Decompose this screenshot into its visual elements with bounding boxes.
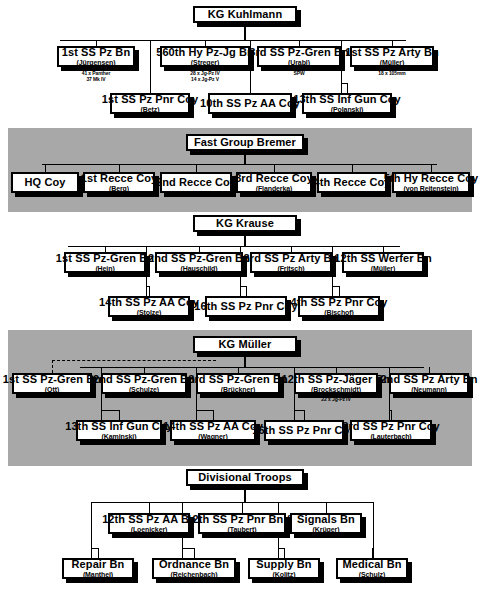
kg-kuhlmann-unit-0: 1st SS Pz Bn(Jürgensen) [57, 46, 135, 67]
kg-muller-dashed-attachment-v [52, 360, 53, 373]
kg-kuhlmann-subunit-2-commander: (Polanski) [331, 106, 363, 113]
kg-krause-unit-3-title: 12th SS Werfer Bn [334, 253, 431, 265]
kg-krause-sub-stem-0 [149, 286, 150, 296]
kg-kuhlmann-unit-2-commander: (Urabl) [288, 59, 310, 66]
divisional-troops-unit-0-commander: (Loenicker) [131, 526, 168, 533]
kg-krause-unit-0-title: 1st SS Pz-Gren Bn [56, 253, 154, 265]
kg-muller-unit-0-title: 1st SS Pz-Gren Bn [3, 374, 101, 386]
kg-krause-unit-3-commander: (Müller) [371, 265, 395, 272]
kg-krause-subunit-1-title: 16th SS Pz Pnr Coy [194, 301, 297, 313]
kg-muller-dashed-attachment-h [52, 360, 216, 361]
kg-muller-unit-0-commander: (Ott) [45, 386, 59, 393]
kg-kuhlmann-subunit-2-title: 13th SS Inf Gun Coy [293, 94, 401, 106]
divisional-troops-unit-1-title: 12th SS Pz Pnr Bn (-) [186, 514, 298, 526]
kg-muller-header: KG Müller [193, 336, 297, 353]
divisional-troops-unit-2-commander: (Krüger) [313, 526, 340, 533]
fast-group-bremer-unit-5: 5th Hy Recce Coy(von Reitenstein) [392, 172, 470, 193]
kg-muller-connector-bus [80, 367, 424, 368]
fast-group-bremer-unit-1: 1st Recce Coy(Berg) [83, 172, 155, 193]
kg-kuhlmann-subunit-0-commander: (Betz) [141, 106, 160, 113]
kg-muller-subunit-3-title: 3rd SS Pz Pnr Coy [342, 421, 440, 433]
org-chart: KG Kuhlmann1st SS Pz Bn(Jürgensen)41 x P… [0, 0, 480, 596]
kg-krause-subunit-0-commander: (Stolze) [137, 309, 161, 316]
divisional-troops-connector-bus [91, 502, 373, 503]
kg-kuhlmann-unit-0-commander: (Jürgensen) [77, 59, 116, 66]
kg-krause-subunit-0: 14th SS Pz AA Coy(Stolze) [108, 296, 190, 317]
kg-muller-sub-stem-2 [304, 410, 305, 420]
fast-group-bremer-unit-4: 4th Recce Coy [317, 172, 387, 193]
kg-krause-subunit-2-commander: (Bischof) [324, 309, 353, 316]
kg-kuhlmann-unit-1: 560th Hy Pz-Jg Bn(Streger) [160, 46, 250, 67]
divisional-troops-header-stem [244, 486, 246, 502]
divisional-troops-unit-0: 12th SS Pz AA Bn(Loenicker) [108, 513, 190, 534]
kg-kuhlmann-connector-bus [60, 40, 406, 41]
kg-kuhlmann-unit-2: 3rd SS Pz-Gren Bn(Urabl) [257, 46, 341, 67]
kg-muller-unit-4: 2nd SS Pz Arty Bn(Neumann) [389, 373, 469, 394]
kg-krause-unit-2-commander: (Fritsch) [277, 265, 304, 272]
kg-muller-unit-3: 12th SS Pz-Jäger Bn(Brockschmidt) [294, 373, 378, 394]
fast-group-bremer-unit-5-commander: (von Reitenstein) [403, 185, 458, 192]
kg-krause-header-title: KG Krause [216, 218, 274, 230]
kg-muller-unit-2-title: 3rd SS Pz-Gren Bn [188, 374, 288, 386]
fast-group-bremer-drop-5 [431, 164, 432, 172]
divisional-troops-sub-stem-3 [372, 548, 373, 558]
kg-krause-sub-stem-2 [339, 286, 340, 296]
kg-muller-sub-elbow-2 [294, 410, 304, 411]
kg-krause-unit-3: 12th SS Werfer Bn(Müller) [342, 252, 424, 273]
kg-krause-sub-stem-1 [246, 286, 247, 296]
kg-muller-unit-1: 2nd SS Pz-Gren Bn(Schulze) [101, 373, 187, 394]
fast-group-bremer-unit-2: 2nd Recce Coy [160, 172, 232, 193]
kg-krause-unit-2: 3rd SS Pz Arty Bn(Fritsch) [250, 252, 332, 273]
kg-kuhlmann-subunit-2: 13th SS Inf Gun Coy(Polanski) [302, 93, 392, 114]
kg-kuhlmann-sub-stem-1 [250, 83, 251, 93]
fast-group-bremer-header-title: Fast Group Bremer [194, 137, 296, 149]
kg-krause-unit-1-commander: (Hauschild) [180, 265, 217, 272]
divisional-troops-header: Divisional Troops [186, 469, 304, 486]
kg-krause-subunit-2: 4th SS Pz Pnr Coy(Bischof) [298, 296, 380, 317]
divisional-troops-sub-stem-2 [284, 548, 285, 558]
kg-muller-unit-0: 1st SS Pz-Gren Bn(Ott) [12, 373, 92, 394]
kg-kuhlmann-unit-3-note: 18 x 105mm [332, 70, 452, 76]
kg-krause-unit-2-title: 3rd SS Pz Arty Bn [244, 253, 339, 265]
kg-krause-subunit-0-title: 14th SS Pz AA Coy [99, 297, 199, 309]
kg-krause-header-stem [244, 232, 246, 246]
divisional-troops-unit-0-title: 12th SS Pz AA Bn [102, 514, 196, 526]
kg-muller-header-stem [244, 353, 246, 367]
divisional-troops-unit-2-title: Signals Bn [297, 514, 355, 526]
fast-group-bremer-unit-1-commander: (Berg) [109, 185, 129, 192]
kg-kuhlmann-subunit-0-title: 1st SS Pz Pnr Coy [102, 94, 198, 106]
kg-krause-connector-bus [68, 246, 400, 247]
kg-muller-subunit-1: 14th SS Pz AA Coy(Wagner) [170, 420, 256, 441]
kg-kuhlmann-unit-1-commander: (Streger) [191, 59, 219, 66]
kg-muller-unit-2-commander: (Brückner) [221, 386, 255, 393]
kg-kuhlmann-unit-3-commander: (Müller) [380, 59, 404, 66]
kg-muller-subunit-1-commander: (Wagner) [198, 433, 227, 440]
kg-kuhlmann-unit-0-title: 1st SS Pz Bn [62, 47, 130, 59]
kg-muller-unit-2: 3rd SS Pz-Gren Bn(Brückner) [196, 373, 280, 394]
kg-muller-unit-1-title: 2nd SS Pz-Gren Bn [93, 374, 195, 386]
divisional-troops-subunit-3-commander: (Schulz) [359, 571, 385, 578]
kg-kuhlmann-unit-3-title: 1st SS Pz Arty Bn [345, 47, 439, 59]
fast-group-bremer-drop-2 [196, 164, 197, 172]
kg-krause-unit-1-title: 2nd SS Pz-Gren Bn [148, 253, 250, 265]
divisional-troops-subunit-3: Medical Bn(Schulz) [336, 558, 408, 579]
kg-muller-subunit-0-title: 13th SS Inf Gun Coy [65, 421, 173, 433]
kg-kuhlmann-subunit-1: 10th SS Pz AA Coy [208, 93, 292, 114]
divisional-troops-drop-1 [242, 502, 243, 513]
divisional-troops-subunit-3-title: Medical Bn [342, 559, 401, 571]
kg-kuhlmann-sub-stem-2 [347, 83, 348, 93]
kg-muller-unit-4-commander: (Neumann) [411, 386, 447, 393]
kg-muller-sub-stem-0 [119, 410, 120, 420]
divisional-troops-subunit-1: Ordnance Bn(Reichenbach) [152, 558, 236, 579]
kg-muller-header-title: KG Müller [219, 339, 272, 351]
fast-group-bremer-unit-4-title: 4th Recce Coy [313, 177, 390, 189]
fast-group-bremer-unit-0-title: HQ Coy [25, 177, 66, 189]
kg-kuhlmann-header-stem [244, 23, 246, 40]
fast-group-bremer-unit-3: 3rd Recce Coy(Flanderka) [236, 172, 312, 193]
divisional-troops-drop-2 [326, 502, 327, 513]
kg-kuhlmann-unit-3: 1st SS Pz Arty Bn(Müller) [350, 46, 434, 67]
kg-muller-subunit-0-commander: (Kaminski) [102, 433, 137, 440]
kg-krause-sub-elbow-2 [332, 286, 339, 287]
divisional-troops-subunit-0: Repair Bn(Manthei) [62, 558, 134, 579]
kg-kuhlmann-header: KG Kuhlmann [193, 6, 297, 23]
